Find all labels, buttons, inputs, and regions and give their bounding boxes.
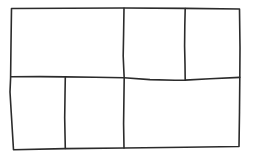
- cell-bottom-left[interactable]: [11, 77, 65, 149]
- cell-bottom-middle[interactable]: [65, 77, 124, 149]
- cell-bottom-right[interactable]: [124, 79, 240, 148]
- drawing-canvas: [0, 0, 255, 158]
- cell-top-left[interactable]: [11, 8, 124, 77]
- cell-top-middle[interactable]: [124, 8, 185, 79]
- vertical-divider-top-right: [185, 9, 186, 80]
- cell-top-right[interactable]: [185, 8, 240, 78]
- vertical-divider-bottom-left: [65, 77, 66, 148]
- partitioned-rectangle-figure: [0, 0, 255, 158]
